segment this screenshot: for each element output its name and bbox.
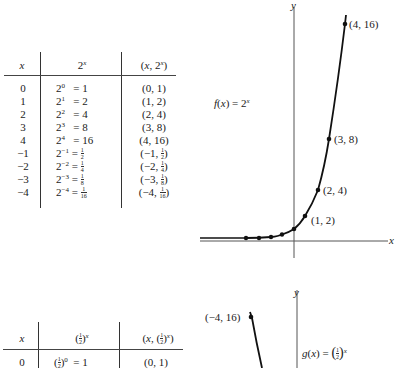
- curve-g: [250, 312, 262, 368]
- x-axis-label: x: [389, 234, 394, 246]
- point-label: (−4, 16): [205, 311, 241, 323]
- table-divider: [119, 322, 120, 368]
- point-label: (2, 4): [323, 184, 347, 196]
- function-label-g: g(x) = (12)x: [302, 345, 347, 361]
- header-half-x: (12)x: [60, 332, 104, 345]
- function-label-f: f(x) = 2x: [214, 97, 250, 109]
- curve-f: [246, 15, 346, 238]
- table-cell-pair: (0, 1): [136, 356, 176, 369]
- point-label: (4, 16): [349, 18, 378, 30]
- table-header-rule: [3, 349, 183, 350]
- table-divider: [38, 322, 39, 368]
- point-label: (3, 8): [334, 133, 358, 145]
- header-pair: (x, (12)x): [132, 332, 184, 345]
- table-cell-expr: (12)0 = 1: [54, 356, 104, 369]
- table-cell-x: 0: [14, 356, 30, 369]
- point-label: (1, 2): [311, 214, 335, 226]
- header-x: x: [14, 332, 30, 345]
- data-points: [244, 22, 348, 241]
- y-axis-label: y: [291, 0, 296, 11]
- y-axis-label-g: y: [294, 286, 299, 298]
